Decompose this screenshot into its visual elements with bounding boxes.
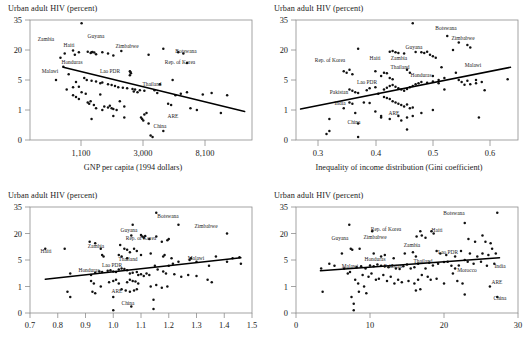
- y-tick-label: 35: [280, 16, 288, 25]
- y-tick-marks: [25, 207, 30, 313]
- plot-area-top-right: 35 20 5 1 0 0.3 0.4 0.5 0.6 BotswanaZimb…: [266, 0, 532, 173]
- country-label: Zimbabwe: [363, 234, 387, 240]
- y-tick-labels: 35 20 5 1 0: [14, 203, 22, 318]
- x-tick-label: 1.3: [191, 321, 201, 330]
- x-tick-label: 0: [294, 321, 298, 330]
- country-label: Rep. of Korea: [315, 57, 346, 63]
- country-labels: BotswanaRep. of KoreaHaitiGuyanaZimbabwe…: [332, 210, 507, 301]
- y-tick-label: 5: [18, 256, 22, 265]
- country-label: Zambia: [38, 36, 55, 42]
- panel-bottom-right: Urban adult HIV (percent) 35 20 5 1 0 01…: [266, 173, 532, 346]
- country-label: Haiti: [41, 248, 52, 254]
- country-label: Zambia: [404, 242, 421, 248]
- country-label: Pakistan: [330, 89, 349, 95]
- country-label: ARE: [492, 279, 503, 285]
- country-label: Malawi: [42, 68, 59, 74]
- country-label: Lao PDR: [100, 68, 121, 74]
- x-tick-label: 0.8: [53, 321, 63, 330]
- y-tick-label: 35: [14, 16, 22, 25]
- country-label: Lao PDR: [438, 249, 459, 255]
- y-tick-labels: 35 20 5 1 0: [280, 16, 288, 145]
- x-tick-label: 1.1: [136, 321, 146, 330]
- x-tick-marks: [81, 140, 205, 146]
- country-label: Malawi: [188, 255, 205, 261]
- country-label: Guyana: [121, 227, 138, 233]
- y-tick-label: 1: [284, 283, 288, 292]
- x-tick-label: 1.0: [108, 321, 118, 330]
- y-tick-label: 20: [14, 46, 22, 55]
- x-tick-label: 0.9: [80, 321, 90, 330]
- y-tick-marks: [291, 20, 296, 140]
- x-tick-label: 30: [514, 321, 522, 330]
- country-label: Rep. of Korea: [126, 235, 157, 241]
- x-tick-label: 8,100: [196, 149, 215, 158]
- country-label: Zimbabwe: [451, 35, 475, 41]
- x-tick-label: 0.6: [485, 149, 495, 158]
- y-tick-label: 20: [280, 230, 288, 239]
- x-tick-label: 0.3: [313, 149, 323, 158]
- y-tick-label: 0: [18, 136, 22, 145]
- x-tick-labels: 0102030: [294, 321, 522, 330]
- x-axis-title-tr: Inequality of income distribution (Gini …: [266, 163, 532, 172]
- country-label: India: [494, 263, 506, 269]
- y-tick-labels: 35 20 5 1 0: [280, 203, 288, 318]
- country-label: Botswana: [157, 213, 179, 219]
- x-tick-label: 3,000: [134, 149, 153, 158]
- country-label: Malawi: [465, 62, 482, 68]
- x-tick-labels: 0.3 0.4 0.5 0.6: [313, 149, 495, 158]
- country-label: Honduras: [365, 256, 386, 262]
- country-label: Zambia: [391, 55, 408, 61]
- plot-area-top-left: 35 20 5 1 0 1,100 3,000 8,100 ZambiaGuya…: [0, 0, 266, 173]
- x-tick-label: 1.4: [219, 321, 230, 330]
- y-tick-label: 0: [284, 309, 288, 318]
- country-label: Malawi: [342, 263, 359, 269]
- country-label: Zambia: [88, 243, 105, 249]
- country-label: Haiti: [64, 42, 75, 48]
- panel-bottom-left: Urban adult HIV (percent) 35 20 5 1 0 0.…: [0, 173, 266, 346]
- country-label: Thailand: [390, 64, 409, 70]
- y-tick-marks: [25, 20, 30, 140]
- country-label: Zimbabwe: [115, 43, 139, 49]
- x-tick-labels: 1,100 3,000 8,100: [72, 149, 215, 158]
- country-label: Lao PDR: [357, 79, 378, 85]
- panel-top-left: Urban adult HIV (percent) 35 20 5 1 0: [0, 0, 266, 173]
- x-tick-label: 10: [366, 321, 374, 330]
- x-tick-labels: 0.70.80.91.01.11.21.31.41.5: [25, 321, 257, 330]
- figure-sheet: Urban adult HIV (percent) 35 20 5 1 0: [0, 0, 532, 346]
- country-label: Guyana: [88, 33, 105, 39]
- x-tick-label: 1.5: [247, 321, 257, 330]
- country-labels: BotswanaZimbabweGuyanaRep. of KoreaHaiti…: [315, 25, 482, 125]
- x-tick-label: 20: [440, 321, 448, 330]
- x-tick-label: 0.4: [371, 149, 382, 158]
- trend-line: [63, 67, 244, 111]
- y-tick-label: 5: [18, 76, 22, 85]
- x-tick-label: 1,100: [72, 149, 91, 158]
- plot-frame: [296, 20, 518, 140]
- y-tick-marks: [291, 207, 296, 313]
- country-label: Botswana: [435, 25, 457, 31]
- x-axis-title-tl: GNP per capita (1994 dollars): [0, 163, 266, 172]
- x-tick-marks: [30, 313, 252, 318]
- scatter-points: [320, 212, 499, 312]
- country-label: Botswana: [175, 48, 197, 54]
- country-label: Morocco: [457, 267, 477, 273]
- country-label: ARE: [168, 113, 179, 119]
- plot-area-bottom-right: 35 20 5 1 0 0102030 BotswanaRep. of Kore…: [266, 173, 532, 346]
- country-label: China: [122, 300, 135, 306]
- y-tick-label: 20: [280, 46, 288, 55]
- country-label: Honduras: [411, 72, 432, 78]
- country-label: Zimbabwe: [194, 223, 218, 229]
- country-label: Honduras: [62, 59, 83, 65]
- y-tick-labels: 35 20 5 1 0: [14, 16, 22, 145]
- country-label: Botswana: [443, 210, 465, 216]
- plot-area-bottom-left: 35 20 5 1 0 0.70.80.91.01.11.21.31.41.5 …: [0, 173, 266, 346]
- plot-frame: [296, 207, 518, 313]
- country-label: Lao PDR: [102, 262, 123, 268]
- country-label: Rep. of Korea: [371, 226, 402, 232]
- x-tick-label: 0.7: [25, 321, 35, 330]
- y-tick-label: 20: [14, 230, 22, 239]
- y-tick-label: 5: [284, 256, 288, 265]
- country-label: Pakistan: [384, 263, 403, 269]
- x-tick-label: 1.2: [164, 321, 174, 330]
- y-tick-label: 5: [284, 76, 288, 85]
